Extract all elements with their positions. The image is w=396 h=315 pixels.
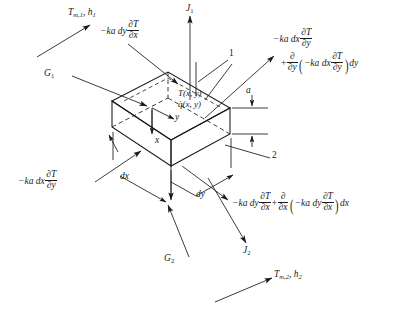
label-irradiation-bottom: G2 [164, 254, 174, 265]
thickness-dimension [232, 95, 268, 147]
label-fluid-bottom: Tm,2, h2 [274, 270, 302, 281]
axis-y-arrow [152, 108, 174, 131]
dx-dimension [109, 132, 171, 202]
leader-flux-in-x [128, 44, 178, 84]
inner-dashed-outline [124, 78, 222, 108]
label-irradiation-top: G1 [44, 69, 54, 80]
box-front-left-face [112, 101, 171, 166]
dy-dimension [171, 138, 233, 196]
leader-g2 [168, 205, 189, 257]
label-radiosity-top: J1 [186, 4, 194, 15]
leader-flux-in-y [95, 151, 141, 182]
box-front-right-face [171, 108, 230, 166]
inner-top-guide [124, 78, 222, 108]
diagram-vector-layer [0, 0, 396, 315]
label-axis-y: y [175, 113, 179, 123]
equation-flux-in-x: −ka dy∂T∂x [100, 20, 140, 41]
label-axis-x: x [155, 136, 159, 146]
label-thickness: a [246, 86, 251, 96]
label-temperature-field: T(x, y) [178, 89, 202, 98]
leader-lines [37, 16, 274, 302]
leader-heat-generation [205, 64, 232, 100]
leader-g1 [72, 76, 147, 106]
heat-conduction-diagram: Tm,1, h1 −ka dy∂T∂x G1 J1 1 2 a T(x, y) … [0, 0, 396, 315]
equation-flux-out-y-line2: +∂∂y(−ka dx∂T∂y)dy [281, 52, 358, 75]
box-top-face [112, 72, 230, 140]
box-solid-edges [112, 72, 230, 166]
label-surface-1: 1 [229, 49, 234, 59]
dy-arrow-left-seg [171, 182, 196, 196]
label-heat-generation: q̇(x, y) [178, 100, 201, 109]
dx-arrow-up [109, 135, 118, 152]
leader-flux-out-x [182, 166, 228, 200]
leader-surface-2 [225, 145, 270, 158]
equation-flux-out-x: −ka dy∂T∂x+∂∂x(−ka dy∂T∂x)dx [232, 192, 349, 215]
label-radiosity-bottom: J2 [243, 246, 251, 257]
hidden-bottom-back-left [112, 98, 168, 127]
label-dx: dx [120, 172, 129, 182]
label-dy: dy [196, 190, 205, 200]
equation-flux-out-y-line1: −ka dx∂T∂y [273, 28, 313, 49]
label-surface-2: 2 [272, 151, 277, 161]
label-fluid-top: Tm,1, h1 [68, 8, 96, 19]
leader-tm1-h1 [37, 25, 90, 57]
equation-flux-in-y: −ka dx∂T∂y [18, 170, 58, 191]
leader-surface-1 [198, 60, 228, 82]
leader-tm2-h2 [215, 278, 272, 302]
leader-flux-out-y [205, 56, 274, 118]
